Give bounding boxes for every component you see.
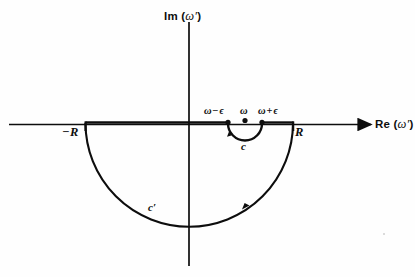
imaginary-axis-label-prefix: Im ( bbox=[164, 10, 185, 22]
imaginary-axis-label-suffix: ) bbox=[197, 10, 201, 22]
omega-minus-eps-operator: − bbox=[212, 105, 220, 116]
label-minus-radius: −R bbox=[62, 126, 79, 139]
label-omega-plus-epsilon: ω+ϵ bbox=[258, 106, 278, 117]
contour-small-semicircle-c bbox=[228, 124, 262, 141]
scan-speck bbox=[383, 233, 385, 235]
omega-minus-eps-epsilon: ϵ bbox=[220, 105, 224, 116]
real-axis-label-prefix: Re ( bbox=[375, 118, 398, 130]
label-contour-c: c bbox=[241, 141, 246, 152]
point-marker-omega-plus-eps bbox=[259, 120, 264, 125]
imaginary-axis-label-symbol: ω′ bbox=[185, 9, 197, 23]
label-radius: R bbox=[295, 126, 304, 139]
point-marker-omega bbox=[242, 118, 247, 123]
real-axis-label-suffix: ) bbox=[410, 118, 414, 130]
omega-minus-eps-symbol: ω bbox=[204, 105, 212, 116]
omega-plus-eps-epsilon: ϵ bbox=[274, 105, 278, 116]
label-omega: ω bbox=[240, 106, 248, 117]
real-axis-label: Re (ω′) bbox=[375, 118, 414, 131]
contour-diagram-figure: Im (ω′) Re (ω′) ω−ϵ ω ω+ϵ −R R c c′ bbox=[0, 0, 415, 277]
omega-symbol: ω bbox=[240, 105, 248, 116]
omega-plus-eps-symbol: ω bbox=[258, 105, 266, 116]
label-contour-c-prime: c′ bbox=[148, 202, 156, 213]
imaginary-axis-label: Im (ω′) bbox=[164, 10, 201, 23]
label-omega-minus-epsilon: ω−ϵ bbox=[204, 106, 224, 117]
omega-plus-eps-operator: + bbox=[266, 105, 274, 116]
point-marker-omega-minus-eps bbox=[225, 120, 230, 125]
real-axis-label-symbol: ω′ bbox=[398, 117, 410, 131]
